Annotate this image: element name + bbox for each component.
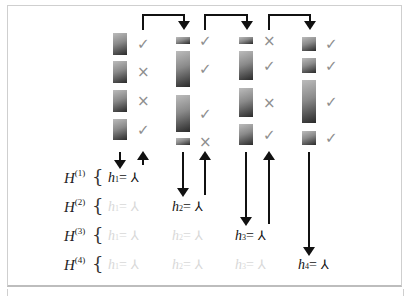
memory-block — [113, 61, 127, 83]
arrow-down-icon — [177, 188, 189, 197]
memory-block — [239, 88, 253, 117]
check-icon: ✓ — [325, 37, 338, 52]
memory-block — [302, 58, 316, 73]
hypothesis-equation: h2=⅄ — [172, 228, 203, 244]
arrow-down-shaft — [119, 152, 121, 160]
memory-block — [239, 51, 253, 80]
cross-icon: × — [263, 34, 276, 49]
transfer-arrow-vertical — [142, 14, 144, 30]
arrow-down-icon — [178, 21, 190, 30]
memory-block — [239, 37, 253, 44]
memory-block — [176, 37, 190, 44]
check-icon: ✓ — [199, 107, 212, 122]
hypothesis-set-label: H(3) — [64, 227, 85, 245]
arrow-down-shaft — [245, 152, 247, 217]
arrow-down-icon — [304, 21, 316, 30]
cross-icon: × — [137, 65, 150, 80]
arrow-down-shaft — [308, 152, 310, 247]
tree-icon: ⅄ — [321, 257, 329, 272]
memory-block — [113, 90, 127, 112]
arrow-down-icon — [241, 21, 253, 30]
cross-icon: × — [263, 96, 276, 111]
hypothesis-equation: h2=⅄ — [172, 257, 203, 273]
transfer-arrow-vertical — [268, 14, 270, 30]
tree-icon: ⅄ — [131, 257, 139, 272]
tree-icon: ⅄ — [131, 228, 139, 243]
transfer-arrow-horizontal — [204, 14, 247, 16]
hypothesis-set-label: H(1) — [64, 169, 85, 187]
arrow-up-shaft — [204, 159, 206, 195]
check-icon: ✓ — [325, 95, 338, 110]
hypothesis-equation: h1=⅄ — [108, 228, 139, 244]
check-icon: ✓ — [137, 37, 150, 52]
check-icon: ✓ — [325, 131, 338, 146]
brace-icon: { — [92, 253, 103, 274]
arrow-down-shaft — [182, 152, 184, 188]
memory-block — [113, 33, 127, 55]
check-icon: ✓ — [263, 128, 276, 143]
hypothesis-equation: h3=⅄ — [235, 257, 266, 273]
hypothesis-equation: h4=⅄ — [298, 257, 329, 273]
memory-block — [302, 37, 316, 51]
tree-icon: ⅄ — [258, 257, 266, 272]
cross-icon: × — [199, 135, 212, 150]
tree-icon: ⅄ — [131, 170, 139, 185]
arrow-down-icon — [114, 160, 126, 169]
hypothesis-equation: h1=⅄ — [108, 257, 139, 273]
brace-icon: { — [92, 224, 103, 245]
hypothesis-equation: h2=⅄ — [172, 199, 203, 215]
arrow-up-shaft — [268, 159, 270, 224]
check-icon: ✓ — [263, 59, 276, 74]
memory-block — [176, 95, 190, 132]
check-icon: ✓ — [325, 59, 338, 74]
next-panel-edge — [7, 289, 404, 296]
brace-icon: { — [92, 166, 103, 187]
brace-icon: { — [92, 195, 103, 216]
hypothesis-equation: h1=⅄ — [108, 199, 139, 215]
memory-block — [239, 124, 253, 145]
hypothesis-set-label: H(4) — [64, 256, 85, 274]
transfer-arrow-vertical — [204, 14, 206, 30]
hypothesis-equation: h1=⅄ — [108, 170, 139, 186]
memory-block — [113, 119, 127, 140]
tree-icon: ⅄ — [195, 257, 203, 272]
arrow-down-icon — [303, 247, 315, 256]
memory-block — [176, 138, 190, 145]
check-icon: ✓ — [199, 62, 212, 77]
transfer-arrow-horizontal — [268, 14, 310, 16]
tree-icon: ⅄ — [195, 228, 203, 243]
arrow-up-shaft — [142, 159, 144, 165]
memory-block — [302, 80, 316, 123]
memory-block — [302, 131, 316, 145]
tree-icon: ⅄ — [258, 228, 266, 243]
check-icon: ✓ — [199, 34, 212, 49]
tree-icon: ⅄ — [131, 199, 139, 214]
hypothesis-set-label: H(2) — [64, 198, 85, 216]
cross-icon: × — [137, 94, 150, 109]
arrow-down-icon — [240, 217, 252, 226]
transfer-arrow-horizontal — [142, 14, 184, 16]
tree-icon: ⅄ — [195, 199, 203, 214]
check-icon: ✓ — [137, 123, 150, 138]
hypothesis-equation: h3=⅄ — [235, 228, 266, 244]
memory-block — [176, 51, 190, 87]
